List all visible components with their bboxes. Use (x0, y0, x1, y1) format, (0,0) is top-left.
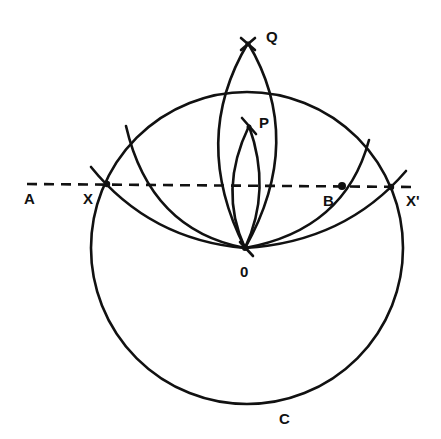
point-p (247, 125, 252, 130)
geometry-diagram: A X B X' 0 P Q C (0, 0, 441, 439)
label-o: 0 (240, 263, 248, 280)
label-x-prime: X' (406, 192, 420, 209)
point-q (246, 42, 251, 47)
label-c: C (279, 410, 290, 427)
point-o (242, 245, 248, 251)
lens-q-left-arc (218, 43, 248, 248)
label-q: Q (266, 28, 278, 45)
label-p: P (259, 114, 269, 131)
label-b: B (323, 192, 334, 209)
arc-left-inner (126, 126, 245, 248)
lens-q-right-arc (245, 43, 276, 248)
point-x (104, 181, 110, 187)
arc-right-outer (245, 171, 406, 248)
arc-right-inner (245, 140, 369, 248)
label-a: A (24, 190, 35, 207)
lens-p-left-arc (232, 126, 249, 248)
point-x-prime (388, 184, 394, 190)
dashed-line-a (27, 184, 414, 187)
point-b (338, 182, 346, 190)
label-x: X (83, 190, 93, 207)
